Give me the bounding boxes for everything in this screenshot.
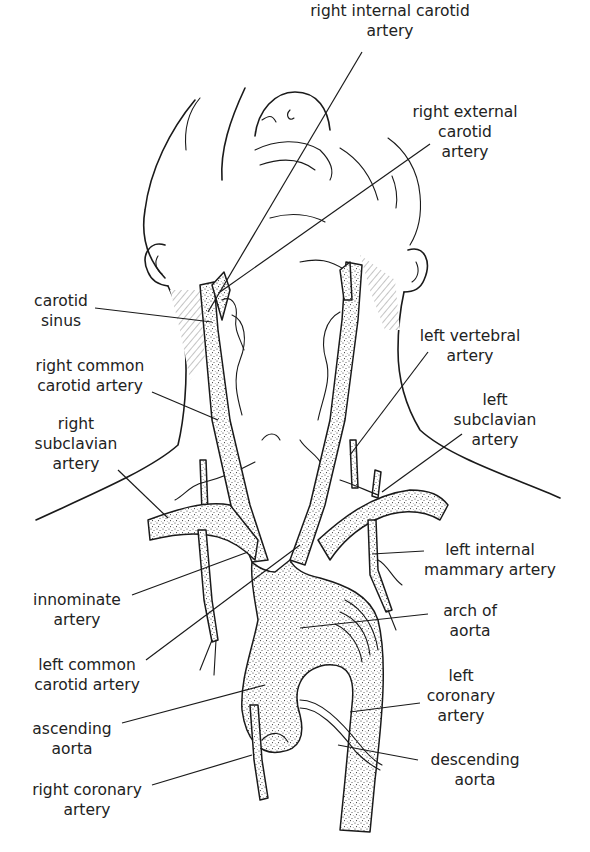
anatomy-diagram: right internal carotid artery right exte… bbox=[0, 0, 590, 852]
label-right-coronary-artery: right coronary artery bbox=[22, 780, 152, 820]
label-right-subclavian-artery: right subclavian artery bbox=[28, 414, 124, 474]
label-left-internal-mammary-artery: left internal mammary artery bbox=[410, 540, 570, 580]
label-left-common-carotid-artery: left common carotid artery bbox=[22, 655, 152, 695]
label-right-common-carotid-artery: right common carotid artery bbox=[25, 356, 155, 396]
label-left-subclavian-artery: left subclavian artery bbox=[445, 390, 545, 450]
label-right-external-carotid-artery: right external carotid artery bbox=[405, 102, 525, 162]
label-carotid-sinus: carotid sinus bbox=[22, 291, 100, 331]
label-ascending-aorta: ascending aorta bbox=[22, 719, 122, 759]
label-left-vertebral-artery: left vertebral artery bbox=[400, 326, 540, 366]
label-descending-aorta: descending aorta bbox=[420, 750, 530, 790]
label-arch-of-aorta: arch of aorta bbox=[430, 601, 510, 641]
label-right-internal-carotid-artery: right internal carotid artery bbox=[305, 1, 475, 41]
label-left-coronary-artery: left coronary artery bbox=[420, 666, 502, 726]
label-innominate-artery: innominate artery bbox=[22, 590, 132, 630]
